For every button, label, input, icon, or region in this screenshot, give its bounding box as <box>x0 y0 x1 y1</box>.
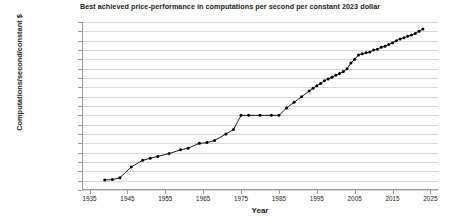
x-tick-mark <box>90 190 91 194</box>
x-tick-label: 1935 <box>70 195 110 202</box>
y-axis-label: Computations/second/constant $ <box>15 0 24 148</box>
x-tick-mark <box>279 190 280 194</box>
x-tick-label: 2015 <box>373 195 413 202</box>
x-tick-mark <box>127 190 128 194</box>
x-axis-label: Year <box>82 206 438 215</box>
x-tick-label: 2005 <box>335 195 375 202</box>
chart-title: Best achieved price-performance in compu… <box>0 2 460 11</box>
gridline <box>82 190 438 191</box>
x-tick-mark <box>165 190 166 194</box>
x-tick-mark <box>393 190 394 194</box>
x-tick-label: 1975 <box>221 195 261 202</box>
x-tick-mark <box>317 190 318 194</box>
y-tick-mark <box>78 190 82 191</box>
x-tick-mark <box>355 190 356 194</box>
x-tick-label: 1985 <box>259 195 299 202</box>
plot-area <box>82 22 438 190</box>
x-tick-label: 1945 <box>107 195 147 202</box>
x-tick-label: 2025 <box>410 195 450 202</box>
x-tick-mark <box>241 190 242 194</box>
x-tick-label: 1955 <box>145 195 185 202</box>
x-tick-mark <box>203 190 204 194</box>
x-tick-label: 1965 <box>183 195 223 202</box>
x-tick-mark <box>430 190 431 194</box>
chart-container: Best achieved price-performance in compu… <box>0 0 460 222</box>
x-tick-label: 1995 <box>297 195 337 202</box>
